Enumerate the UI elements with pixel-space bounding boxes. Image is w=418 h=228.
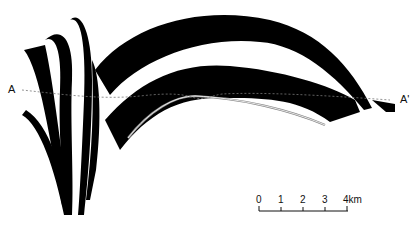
scale-tick-0: 0 — [256, 194, 262, 205]
scale-bar — [259, 206, 348, 211]
section-end-label: A' — [400, 93, 409, 105]
scale-tick-4km: 4km — [343, 194, 362, 205]
cross-section-diagram: A A' 0 1 2 3 4km — [0, 0, 418, 228]
scale-tick-3: 3 — [322, 194, 328, 205]
section-start-label: A — [8, 83, 15, 95]
scale-tick-1: 1 — [278, 194, 284, 205]
scale-tick-2: 2 — [300, 194, 306, 205]
right-tail — [372, 100, 395, 112]
lower-layer — [105, 65, 360, 150]
